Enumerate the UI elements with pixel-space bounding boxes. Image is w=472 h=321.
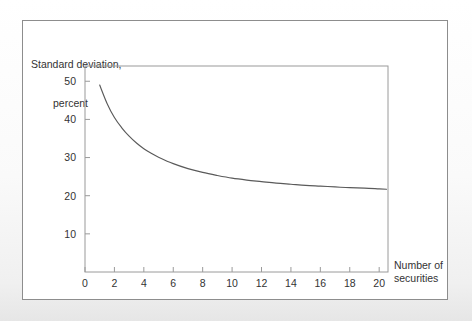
x-tick-label: 20 xyxy=(373,277,385,289)
y-tick-label: 50 xyxy=(64,75,76,87)
plot-area: 02468101214161820 1020304050 xyxy=(0,0,472,321)
diversification-chart: Standard deviation, percent Number of se… xyxy=(0,0,472,321)
risk-curve xyxy=(100,85,387,189)
x-tick-label: 0 xyxy=(82,277,88,289)
x-tick-label: 6 xyxy=(170,277,176,289)
y-tick-label: 40 xyxy=(64,113,76,125)
x-tick-label: 14 xyxy=(285,277,297,289)
x-tick-label: 18 xyxy=(344,277,356,289)
x-tick-label: 16 xyxy=(314,277,326,289)
plot-frame xyxy=(85,66,388,272)
x-tick-label: 12 xyxy=(256,277,268,289)
data-series-group xyxy=(100,85,387,189)
y-tick-label: 30 xyxy=(64,151,76,163)
x-tick-label: 8 xyxy=(200,277,206,289)
x-tick-label: 4 xyxy=(141,277,147,289)
y-tick-label: 20 xyxy=(64,190,76,202)
y-tick-label: 10 xyxy=(64,228,76,240)
x-tick-label: 2 xyxy=(111,277,117,289)
x-tick-label: 10 xyxy=(226,277,238,289)
y-axis-ticks: 1020304050 xyxy=(64,75,90,240)
x-axis-ticks: 02468101214161820 xyxy=(82,267,385,289)
